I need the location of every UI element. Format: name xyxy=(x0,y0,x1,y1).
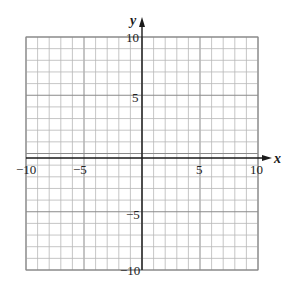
x-axis-arrow-icon xyxy=(262,155,272,161)
y-axis-label: y xyxy=(128,13,137,28)
x-tick-pos5: 5 xyxy=(196,162,203,177)
x-tick-neg10: −10 xyxy=(16,162,36,177)
y-tick-neg10: −10 xyxy=(120,263,140,278)
y-tick-pos5: 5 xyxy=(132,90,139,105)
coordinate-plane: y x −10 −5 5 10 10 5 −5 −10 xyxy=(0,0,291,295)
y-tick-neg5: −5 xyxy=(126,207,140,222)
y-tick-pos10: 10 xyxy=(126,30,139,45)
y-axis-arrow-icon xyxy=(139,17,145,27)
x-tick-pos10: 10 xyxy=(250,162,263,177)
x-axis-label: x xyxy=(273,151,281,166)
x-tick-neg5: −5 xyxy=(73,162,87,177)
